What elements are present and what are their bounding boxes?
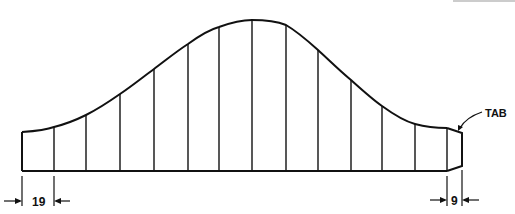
dimension-19-label: 19 [32,195,46,209]
tab-leader-arrow [460,112,482,128]
tab-label: TAB [485,107,507,119]
dimension-9-label: 9 [451,194,458,208]
tab-leader-arrowhead [458,125,463,131]
panel-diagram: TAB 19 9 [0,0,515,214]
tab-outline [447,128,462,171]
station-lines [54,20,447,171]
